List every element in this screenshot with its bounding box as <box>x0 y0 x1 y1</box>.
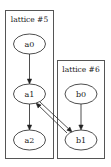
arrowhead-icon <box>79 125 83 130</box>
edge-b0-to-b1 <box>79 104 83 130</box>
edge-line <box>40 102 68 129</box>
node-b0[interactable]: b0 <box>65 84 97 104</box>
cluster-label: lattice #5 <box>11 15 49 24</box>
node-label: b0 <box>76 90 86 99</box>
edge-a0-to-a1 <box>27 54 31 84</box>
arrowhead-icon <box>27 79 31 84</box>
node-a1[interactable]: a1 <box>14 84 46 104</box>
cluster-label: lattice #6 <box>62 65 100 74</box>
graph-canvas: lattice #5lattice #6 a0a1a2b0b1 <box>0 0 111 167</box>
edge-b1-to-a1 <box>36 103 67 133</box>
nodes-layer: a0a1a2b0b1 <box>14 34 98 150</box>
node-label: a1 <box>25 90 35 99</box>
edge-a1-to-a2 <box>27 104 31 130</box>
node-label: a0 <box>25 40 35 49</box>
node-a0[interactable]: a0 <box>14 34 46 54</box>
edge-a1-to-b1 <box>40 102 72 132</box>
node-label: a2 <box>25 136 35 145</box>
node-label: b1 <box>76 136 86 145</box>
arrowhead-icon <box>27 125 31 130</box>
node-a2[interactable]: a2 <box>14 130 46 150</box>
node-b1[interactable]: b1 <box>65 130 97 150</box>
